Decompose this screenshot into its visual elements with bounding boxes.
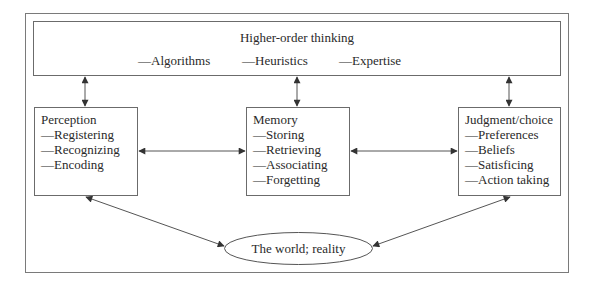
perception-box: Perception —Registering —Recognizing —En… — [34, 107, 138, 196]
judgment-title: Judgment/choice — [465, 112, 560, 127]
perception-item: —Registering — [41, 127, 137, 142]
higher-order-item-expertise: —Expertise — [339, 53, 401, 69]
perception-item: —Encoding — [41, 157, 137, 172]
memory-item: —Associating — [253, 157, 349, 172]
higher-order-title: Higher-order thinking — [34, 30, 560, 46]
arrow-perception-world — [86, 197, 224, 246]
arrow-judgment-world — [373, 197, 510, 246]
higher-order-item-algorithms: —Algorithms — [138, 53, 210, 69]
judgment-item: —Beliefs — [465, 142, 560, 157]
memory-item: —Retrieving — [253, 142, 349, 157]
judgment-item: —Action taking — [465, 172, 560, 187]
memory-title: Memory — [253, 112, 349, 127]
memory-item: —Forgetting — [253, 172, 349, 187]
higher-order-item-heuristics: —Heuristics — [242, 53, 308, 69]
memory-box: Memory —Storing —Retrieving —Associating… — [246, 107, 350, 196]
diagram-canvas: Higher-order thinking —Algorithms —Heuri… — [0, 0, 591, 287]
perception-title: Perception — [41, 112, 137, 127]
memory-item: —Storing — [253, 127, 349, 142]
judgment-item: —Satisficing — [465, 157, 560, 172]
world-label: The world; reality — [224, 232, 373, 265]
perception-item: —Recognizing — [41, 142, 137, 157]
judgment-item: —Preferences — [465, 127, 560, 142]
higher-order-thinking-box: Higher-order thinking —Algorithms —Heuri… — [33, 21, 561, 76]
judgment-choice-box: Judgment/choice —Preferences —Beliefs —S… — [458, 107, 561, 196]
